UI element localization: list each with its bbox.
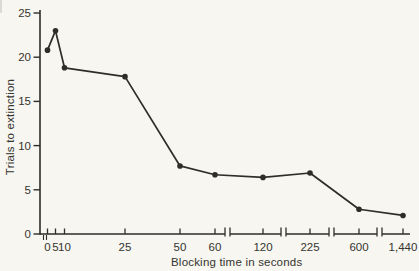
x-tick-label: 0 — [44, 241, 50, 253]
extinction-figure: 051015202505102550601202256001,440 Trial… — [0, 0, 419, 271]
y-tick-label: 5 — [25, 184, 31, 196]
data-point — [122, 74, 128, 80]
x-axis-title: Blocking time in seconds — [171, 256, 302, 268]
x-tick-label: 25 — [119, 241, 132, 253]
data-line — [48, 31, 404, 216]
data-point — [356, 206, 362, 212]
y-axis-title: Trials to extinction — [4, 79, 16, 175]
x-tick-label: 60 — [209, 241, 222, 253]
data-point — [177, 163, 183, 169]
x-tick-label: 10 — [58, 241, 71, 253]
data-point — [212, 172, 218, 178]
x-tick-label: 50 — [174, 241, 187, 253]
data-point — [307, 170, 313, 176]
extinction-line-chart: 051015202505102550601202256001,440 — [0, 0, 419, 271]
data-point — [53, 28, 59, 34]
y-tick-label: 0 — [25, 228, 31, 240]
data-point — [400, 213, 406, 219]
y-tick-label: 15 — [18, 95, 31, 107]
x-tick-label: 1,440 — [389, 241, 418, 253]
y-tick-label: 25 — [18, 7, 31, 19]
x-tick-label: 120 — [253, 241, 272, 253]
y-tick-label: 20 — [18, 51, 31, 63]
y-tick-label: 10 — [18, 140, 31, 152]
data-point — [45, 47, 51, 53]
data-point — [260, 175, 266, 181]
x-tick-label: 225 — [300, 241, 319, 253]
data-point — [62, 65, 68, 71]
x-tick-label: 600 — [349, 241, 368, 253]
